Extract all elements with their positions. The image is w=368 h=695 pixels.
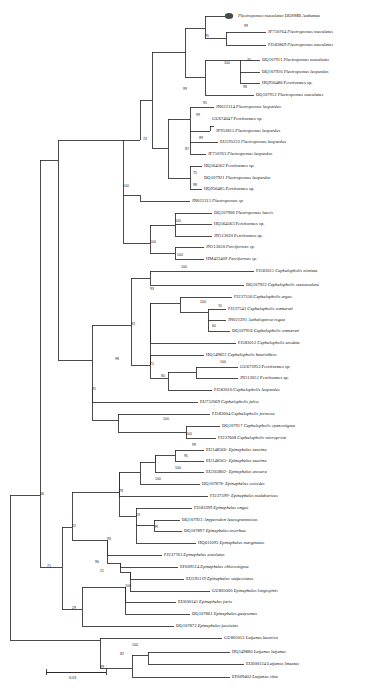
bootstrap-value: 80 xyxy=(161,375,165,379)
tip-label: EF609402 Lutjanus vitta xyxy=(232,675,278,680)
bootstrap-value: 22 xyxy=(72,525,76,529)
bootstrap-value: 59 xyxy=(136,514,140,518)
tip-label: HQ956485 Perciformes sp. xyxy=(204,187,254,192)
phylogenetic-tree-figure: Plectropomus maculatus DOSMB AndamanJF75… xyxy=(0,0,368,695)
bootstrap-value: 99 xyxy=(192,444,196,448)
tip-label: HQ611093 Epinephelus marginatus xyxy=(198,541,264,546)
tip-label: GU673953 Perciformes sp. xyxy=(240,365,290,370)
bootstrap-value: 95 xyxy=(205,35,209,39)
bootstrap-value: 100 xyxy=(125,585,131,589)
bootstrap-value: 100 xyxy=(123,185,129,189)
bootstrap-value: 100 xyxy=(163,418,169,422)
bootstrap-value: 100 xyxy=(175,467,181,471)
tip-label: DQ107917 Cephalopholis cyanostigma xyxy=(222,424,295,429)
bootstrap-value: 60 xyxy=(212,325,216,329)
tip-label: DQ107897 Epinephelus morrhua xyxy=(184,529,246,534)
bootstrap-value: 98 xyxy=(193,184,197,188)
bootstrap-value: 99 xyxy=(100,666,104,670)
tip-label: FJ583869 Plectropomus maculatus xyxy=(268,43,333,48)
tip-label: GU674047 Perciformes sp. xyxy=(212,117,262,122)
tip-label: FJ583010 Cephalopholis leopardus xyxy=(214,388,280,393)
tip-label: GU805000 Epinephelus longispinis xyxy=(212,589,278,594)
bootstrap-value: 74 xyxy=(143,138,147,142)
bootstrap-value: 100 xyxy=(155,478,161,482)
tip-label: HM422409 Perciformes sp. xyxy=(206,257,257,262)
bootstrap-value: 21 xyxy=(100,570,104,574)
tip-label: FJ583004 Cephalopholis formosa xyxy=(212,412,275,417)
bootstrap-value: 93 xyxy=(150,288,154,292)
tip-label: DQ107923 Cephalopholis sexmaculata xyxy=(246,283,319,288)
tip-label: EU752069 Cephalopholis fulva xyxy=(200,400,258,405)
bootstrap-value: 93 xyxy=(107,538,111,542)
tip-label: HQ564563 Perciformes sp. xyxy=(214,222,264,227)
bootstrap-value: 95 xyxy=(203,102,207,106)
tip-label: HQ956486 Perciformes sp. xyxy=(262,81,312,86)
bootstrap-value: 98 xyxy=(243,86,247,90)
tip-label: DQ107920 Plectropomus leopardus xyxy=(262,70,329,75)
bootstrap-value: 100 xyxy=(150,241,156,245)
tip-label: JN313020 Perciformes sp. xyxy=(214,234,263,239)
tip-label: JN313050 Perciformes sp. xyxy=(206,245,255,250)
bootstrap-value: 75 xyxy=(193,172,197,176)
bootstrap-value: 46 xyxy=(40,493,44,497)
tip-label: DQ107911 Plectropomus maculatus xyxy=(262,58,329,63)
bootstrap-value: 70 xyxy=(218,305,222,309)
bootstrap-value: 99 xyxy=(154,526,158,530)
bootstrap-value: 100 xyxy=(177,254,183,258)
tip-label: DQ107873 Epinephelus fasciatus xyxy=(176,624,238,629)
tip-label: Plectropomus maculatus DOSMB Andaman xyxy=(238,14,320,19)
tip-label: EU363802- Epinephelus awoara xyxy=(206,470,267,475)
tip-label: JN313051 Perciformes sp. xyxy=(240,376,289,381)
tip-label: DQ107916 Cephalopholis sonnerati xyxy=(232,329,299,334)
tip-label: JN021314 Plectropomus leopardus xyxy=(216,105,281,110)
bootstrap-value: 71 xyxy=(47,565,51,569)
bootstrap-value: 71 xyxy=(150,363,154,367)
tip-label: DQ107921 Plectropomus leopardus xyxy=(204,176,271,181)
tip-label: EF609514 Epinephelus chlorostigma xyxy=(180,565,249,570)
bootstrap-value: 91 xyxy=(92,388,96,392)
bootstrap-value: 70 xyxy=(247,59,251,63)
tip-label: JN021315 Plectropomus sp. xyxy=(192,199,244,204)
tip-label: DQ107912 Plectropomus maculatus xyxy=(256,93,323,98)
scale-bar-label: 0.01 xyxy=(69,675,77,680)
tip-label: JF750764 Plectropomus maculatus xyxy=(268,30,333,35)
tip-label: EU595233 Plectropomus leopardus xyxy=(220,140,286,145)
tip-label: EU595119 Epinephelus sexfasciatus xyxy=(186,577,253,582)
bootstrap-value: 89 xyxy=(199,137,203,141)
bootstrap-value: 100 xyxy=(132,644,138,648)
tip-label: HQ149822 Cephalopholis hemistiktos xyxy=(206,353,277,358)
bootstrap-value: 99 xyxy=(244,25,248,29)
tip-label: FJ237556 Cephalopholis argus xyxy=(234,295,292,300)
tip-label: HQ149880 Lutjanus lutjanus xyxy=(232,650,286,655)
bootstrap-value: 100 xyxy=(175,220,181,224)
tip-label: DQ107878- Epinephelus coioides xyxy=(202,482,265,487)
tip-label: FJ583012 Cephalopholis urodeta xyxy=(238,341,300,346)
bootstrap-value: 98 xyxy=(115,358,119,362)
tip-label: JF750763 Plectropomus leopardus xyxy=(208,152,272,157)
tip-label: GU805012 Lutjanus kasmira xyxy=(224,636,278,641)
bootstrap-value: 95 xyxy=(184,455,188,459)
tree-branches xyxy=(0,0,368,695)
tip-label: HQ564562 Perciformes sp. xyxy=(204,164,254,169)
tip-label: FJ237541 Cephalopholis sonnerati xyxy=(228,307,293,312)
bootstrap-value: 100 xyxy=(181,266,187,270)
tip-label: DQ107908 Plectropomus laevis xyxy=(214,211,273,216)
bootstrap-value: 99 xyxy=(196,114,200,118)
highlight-node-marker xyxy=(225,13,233,19)
bootstrap-value: 96 xyxy=(95,561,99,565)
bootstrap-value: 82 xyxy=(120,653,124,657)
bootstrap-value: 29 xyxy=(72,607,76,611)
bootstrap-value: 93 xyxy=(131,323,135,327)
tip-label: DQ107861 Epinephelus guaysanus xyxy=(192,612,257,617)
bootstrap-value: 87 xyxy=(185,148,189,152)
tip-label: EU148565- Epinephelus tauvina xyxy=(206,459,266,464)
bootstrap-value: 78 xyxy=(119,490,123,494)
tip-label: FJ583399 Epinephelus ongus xyxy=(194,506,248,511)
bootstrap-value: 100 xyxy=(224,62,230,66)
tip-label: EU600134 Lutjanus lineatus xyxy=(246,662,299,667)
tip-label: FJ237763 Epinephelus areolatus xyxy=(164,553,225,558)
tip-label: FJ237608 Cephalopholis microprion xyxy=(218,436,286,441)
tip-label: DQ107922 Anyperodon leucogrammicus xyxy=(182,518,258,523)
tip-label: EU148566- Epinephelus tauvina xyxy=(206,448,266,453)
tip-label: JN021291 Aethaloperca rogaa xyxy=(228,318,285,323)
